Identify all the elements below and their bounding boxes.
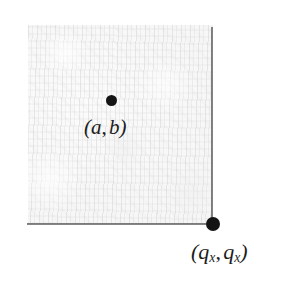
math-figure: (a, b) (qx, qx)	[0, 0, 290, 285]
corner-label-comma: ,	[215, 239, 221, 264]
corner-label-var-q2: q	[223, 239, 234, 264]
corner-label-close-paren: )	[240, 239, 247, 264]
horizontal-axis-line	[27, 223, 213, 225]
interior-point-dot	[106, 95, 117, 106]
interior-label-var-a: a	[91, 115, 102, 139]
interior-label-open-paren: (	[84, 115, 91, 139]
interior-point-label: (a, b)	[84, 117, 126, 138]
corner-point-label: (qx, qx)	[191, 241, 248, 265]
vertical-axis-line	[211, 27, 213, 225]
interior-label-var-b: b	[109, 115, 120, 139]
corner-label-var-q1: q	[198, 239, 209, 264]
corner-point-dot	[206, 217, 220, 231]
interior-label-close-paren: )	[119, 115, 126, 139]
interior-label-comma: ,	[102, 115, 108, 139]
